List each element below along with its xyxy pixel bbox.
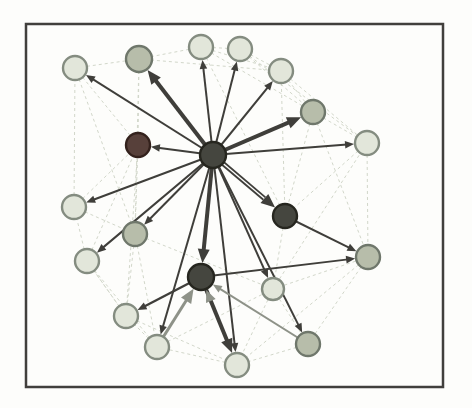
- graph-node-l: [114, 304, 138, 328]
- graph-node-i: [62, 195, 86, 219]
- graph-node-c: [189, 35, 213, 59]
- graph-node-hub2: [188, 264, 214, 290]
- graph-node-d: [228, 37, 252, 61]
- graph-node-k: [75, 249, 99, 273]
- graph-node-f: [301, 100, 325, 124]
- graph-node-m: [145, 335, 169, 359]
- scanned-figure-page: [0, 0, 472, 408]
- graph-node-r: [126, 133, 150, 157]
- graph-node-b: [126, 46, 152, 72]
- graph-node-e: [269, 59, 293, 83]
- graph-node-j: [123, 222, 147, 246]
- graph-node-h: [356, 245, 380, 269]
- graph-node-hub1: [200, 142, 226, 168]
- network-graph-svg: [0, 0, 472, 408]
- graph-node-n: [225, 353, 249, 377]
- graph-node-g: [355, 131, 379, 155]
- graph-node-p: [296, 332, 320, 356]
- graph-node-q: [273, 204, 297, 228]
- graph-node-o: [262, 278, 284, 300]
- graph-node-a: [63, 56, 87, 80]
